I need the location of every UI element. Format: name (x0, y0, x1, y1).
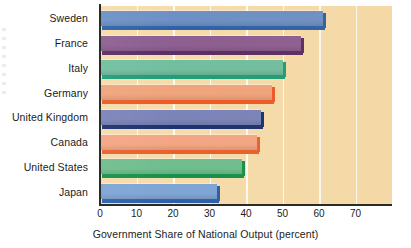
bar-bottom-edge (102, 100, 274, 104)
bar-row (100, 6, 392, 31)
category-label-japan: Japan (0, 179, 94, 204)
x-tick-label-50: 50 (277, 208, 288, 219)
bar-face (100, 36, 301, 51)
bar-sweden[interactable] (100, 11, 323, 26)
category-label-canada: Canada (0, 130, 94, 155)
x-axis-tick-labels: 010203040506070 (100, 208, 392, 224)
bar-face (100, 85, 272, 100)
bar-highlight (100, 84, 272, 85)
bar-bottom-edge (102, 150, 259, 154)
bar-face (100, 184, 217, 199)
bar-row (100, 130, 392, 155)
chart-figure: Sweden France Italy Germany United Kingd… (0, 0, 411, 248)
bar-side-edge (257, 137, 260, 152)
bar-united-states[interactable] (100, 159, 242, 174)
bar-bottom-edge (102, 75, 285, 79)
bar-side-edge (272, 87, 275, 102)
plot-area (100, 6, 392, 204)
bar-side-edge (217, 186, 220, 201)
bar-bottom-edge (102, 174, 244, 178)
bar-face (100, 159, 242, 174)
x-tick-label-10: 10 (131, 208, 142, 219)
bar-series (100, 6, 392, 204)
bar-side-edge (301, 38, 304, 53)
bar-highlight (100, 10, 323, 11)
bar-japan[interactable] (100, 184, 217, 199)
bar-row (100, 155, 392, 180)
bar-row (100, 56, 392, 81)
bar-face (100, 135, 257, 150)
bar-highlight (100, 134, 257, 135)
bar-row (100, 179, 392, 204)
bar-side-edge (261, 112, 264, 127)
x-tick-label-60: 60 (313, 208, 324, 219)
bar-row (100, 105, 392, 130)
x-tick-label-20: 20 (167, 208, 178, 219)
x-tick-label-40: 40 (240, 208, 251, 219)
bar-canada[interactable] (100, 135, 257, 150)
category-label-france: France (0, 31, 94, 56)
x-axis-title: Government Share of National Output (per… (0, 228, 411, 240)
bar-italy[interactable] (100, 60, 283, 75)
category-label-united-states: United States (0, 155, 94, 180)
bar-face (100, 60, 283, 75)
bar-side-edge (283, 62, 286, 77)
bar-germany[interactable] (100, 85, 272, 100)
bar-bottom-edge (102, 26, 325, 30)
bar-face (100, 110, 261, 125)
x-tick-label-0: 0 (97, 208, 103, 219)
category-label-united-kingdom: United Kingdom (0, 105, 94, 130)
category-axis-labels: Sweden France Italy Germany United Kingd… (0, 6, 94, 204)
bar-highlight (100, 109, 261, 110)
bar-highlight (100, 158, 242, 159)
bar-row (100, 80, 392, 105)
bar-bottom-edge (102, 199, 219, 203)
bar-side-edge (242, 161, 245, 176)
category-label-germany: Germany (0, 80, 94, 105)
category-label-italy: Italy (0, 56, 94, 81)
bar-highlight (100, 183, 217, 184)
bar-row (100, 31, 392, 56)
bar-highlight (100, 35, 301, 36)
bar-united-kingdom[interactable] (100, 110, 261, 125)
bar-highlight (100, 59, 283, 60)
bar-bottom-edge (102, 51, 303, 55)
x-tick-label-70: 70 (350, 208, 361, 219)
x-axis-spine (99, 204, 392, 206)
x-tick-label-30: 30 (204, 208, 215, 219)
category-label-sweden: Sweden (0, 6, 94, 31)
y-axis-spine (99, 4, 101, 206)
bar-face (100, 11, 323, 26)
bar-side-edge (323, 13, 326, 28)
bar-bottom-edge (102, 125, 263, 129)
bar-france[interactable] (100, 36, 301, 51)
